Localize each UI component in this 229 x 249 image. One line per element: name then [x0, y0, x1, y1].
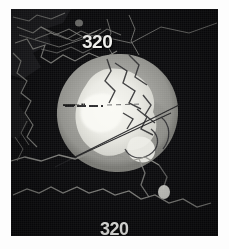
center-marker-glyph: ▬▬─ ▪▪	[63, 101, 99, 107]
scan-page: 320 320 ▬▬─ ▪▪	[0, 0, 229, 249]
bearing-label-top: 320	[82, 31, 112, 53]
coastline-lower-group	[11, 153, 211, 207]
speck-upper	[75, 20, 83, 27]
radar-scan-plate: 320 320 ▬▬─ ▪▪	[11, 9, 218, 236]
isolated-echo-blob	[158, 185, 170, 199]
lower-coastline-layer	[11, 9, 218, 236]
coastline-left-edge	[15, 121, 29, 161]
bearing-label-bottom: 320	[100, 219, 129, 236]
